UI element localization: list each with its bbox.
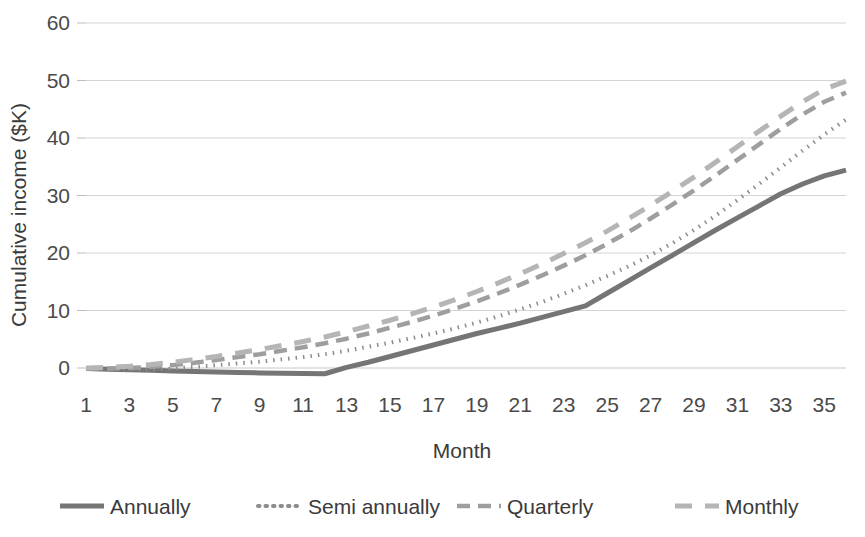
chart-container: 0102030405060 13579111315171921232527293… bbox=[0, 0, 865, 537]
x-tick-label-25: 25 bbox=[595, 393, 618, 416]
y-axis-title: Cumulative income ($K) bbox=[7, 103, 30, 327]
y-tick-label-30: 30 bbox=[47, 184, 70, 207]
y-tick-label-20: 20 bbox=[47, 241, 70, 264]
legend: AnnuallySemi annuallyQuarterlyMonthly bbox=[60, 495, 799, 518]
y-tick-label-40: 40 bbox=[47, 126, 70, 149]
x-tick-label-9: 9 bbox=[254, 393, 266, 416]
x-tick-label-19: 19 bbox=[465, 393, 488, 416]
y-axis-tick-marks bbox=[77, 23, 86, 368]
legend-label-annually[interactable]: Annually bbox=[110, 495, 191, 518]
x-tick-label-31: 31 bbox=[726, 393, 749, 416]
legend-label-semi-annually[interactable]: Semi annually bbox=[308, 495, 440, 518]
x-tick-label-13: 13 bbox=[335, 393, 358, 416]
x-tick-label-29: 29 bbox=[682, 393, 705, 416]
x-tick-label-35: 35 bbox=[813, 393, 836, 416]
x-tick-label-15: 15 bbox=[378, 393, 401, 416]
x-tick-label-1: 1 bbox=[80, 393, 92, 416]
y-tick-label-50: 50 bbox=[47, 69, 70, 92]
line-chart: 0102030405060 13579111315171921232527293… bbox=[0, 0, 865, 537]
x-tick-label-33: 33 bbox=[769, 393, 792, 416]
x-axis-title: Month bbox=[433, 439, 491, 462]
x-tick-label-23: 23 bbox=[552, 393, 575, 416]
x-axis-tick-labels: 1357911131517192123252729313335 bbox=[80, 393, 836, 416]
x-tick-label-11: 11 bbox=[292, 393, 314, 416]
legend-label-monthly[interactable]: Monthly bbox=[725, 495, 799, 518]
y-tick-label-10: 10 bbox=[47, 299, 70, 322]
x-tick-label-27: 27 bbox=[639, 393, 662, 416]
series-line-semi-annually bbox=[86, 120, 846, 370]
gridlines bbox=[86, 23, 846, 368]
y-tick-label-60: 60 bbox=[47, 11, 70, 34]
series-line-annually bbox=[86, 170, 846, 374]
x-tick-label-7: 7 bbox=[210, 393, 222, 416]
series-lines bbox=[86, 81, 846, 374]
y-axis-tick-labels: 0102030405060 bbox=[47, 11, 70, 379]
x-tick-label-21: 21 bbox=[509, 393, 532, 416]
x-tick-label-17: 17 bbox=[422, 393, 445, 416]
x-tick-label-3: 3 bbox=[124, 393, 136, 416]
x-tick-label-5: 5 bbox=[167, 393, 179, 416]
y-tick-label-0: 0 bbox=[58, 356, 70, 379]
legend-label-quarterly[interactable]: Quarterly bbox=[507, 495, 594, 518]
